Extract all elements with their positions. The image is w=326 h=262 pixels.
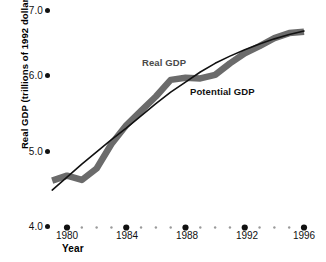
x-axis-minor-dot bbox=[110, 226, 112, 228]
x-axis-minor-dot bbox=[273, 226, 275, 228]
x-axis-minor-dot bbox=[95, 226, 97, 228]
x-axis-major-dot bbox=[301, 224, 307, 230]
gdp-line-chart: Real GDP (trillions of 1992 dollars) 7.0… bbox=[0, 0, 326, 262]
series-path-potential-gdp bbox=[52, 31, 304, 190]
plot-area bbox=[0, 0, 326, 262]
x-axis-minor-dot bbox=[229, 226, 231, 228]
x-axis-major-dot bbox=[182, 224, 188, 230]
x-axis-minor-dot bbox=[81, 226, 83, 228]
x-axis-minor-dot bbox=[169, 226, 171, 228]
x-axis-minor-dot bbox=[288, 226, 290, 228]
x-axis-minor-dot bbox=[199, 226, 201, 228]
x-axis-dotted-line bbox=[64, 224, 307, 230]
x-axis-minor-dot bbox=[155, 226, 157, 228]
x-axis-major-dot bbox=[242, 224, 248, 230]
x-axis-major-dot bbox=[64, 224, 70, 230]
x-axis-major-dot bbox=[123, 224, 129, 230]
x-axis-minor-dot bbox=[258, 226, 260, 228]
x-axis-minor-dot bbox=[140, 226, 142, 228]
x-axis-minor-dot bbox=[214, 226, 216, 228]
